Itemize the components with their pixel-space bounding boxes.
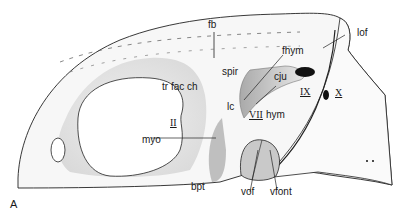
- label-nerve-II: II: [170, 118, 177, 128]
- panel-label: A: [10, 198, 17, 210]
- label-fhym: fhym: [282, 46, 304, 56]
- label-vof: vof: [241, 187, 254, 197]
- figure-panel-a: fb fhym lof spir cju tr fac ch lc IX X I…: [0, 0, 400, 221]
- label-myo: myo: [142, 135, 161, 145]
- label-vfont: vfont: [270, 187, 292, 197]
- label-spir: spir: [222, 67, 238, 77]
- label-lc: lc: [227, 102, 234, 112]
- label-nerve-X: X: [335, 88, 342, 98]
- label-fb: fb: [208, 20, 216, 30]
- label-tr-fac-ch: tr fac ch: [162, 82, 198, 92]
- label-nerve-IX: IX: [300, 87, 311, 97]
- label-nerve-VII: VII: [249, 110, 263, 120]
- label-bpt: bpt: [191, 182, 205, 192]
- label-cju: cju: [274, 72, 287, 82]
- label-hym: hym: [266, 110, 285, 120]
- label-lof: lof: [357, 28, 368, 38]
